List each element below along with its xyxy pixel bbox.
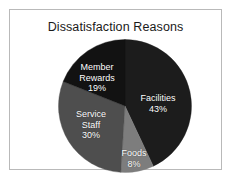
pie-chart-figure: Dissatisfaction Reasons Facilities 43% M… bbox=[0, 0, 234, 184]
chart-title: Dissatisfaction Reasons bbox=[10, 20, 221, 34]
chart-frame: Dissatisfaction Reasons Facilities 43% M… bbox=[9, 9, 222, 170]
slice-label-foods-name: Foods bbox=[110, 148, 158, 159]
slice-label-facilities: Facilities 43% bbox=[130, 93, 186, 114]
slice-label-foods: Foods 8% bbox=[110, 148, 158, 169]
slice-label-foods-percent: 8% bbox=[110, 159, 158, 170]
slice-label-service-staff-name-line1: Service bbox=[65, 109, 117, 120]
slice-label-facilities-name: Facilities bbox=[130, 93, 186, 104]
slice-label-member-rewards: Member Rewards 19% bbox=[69, 62, 125, 94]
slice-label-member-rewards-name-line1: Member bbox=[69, 62, 125, 73]
slice-label-member-rewards-percent: 19% bbox=[69, 83, 125, 94]
slice-label-member-rewards-name-line2: Rewards bbox=[69, 73, 125, 84]
slice-label-service-staff-name-line2: Staff bbox=[65, 120, 117, 131]
slice-label-service-staff: Service Staff 30% bbox=[65, 109, 117, 141]
slice-label-service-staff-percent: 30% bbox=[65, 130, 117, 141]
slice-label-facilities-percent: 43% bbox=[130, 104, 186, 115]
